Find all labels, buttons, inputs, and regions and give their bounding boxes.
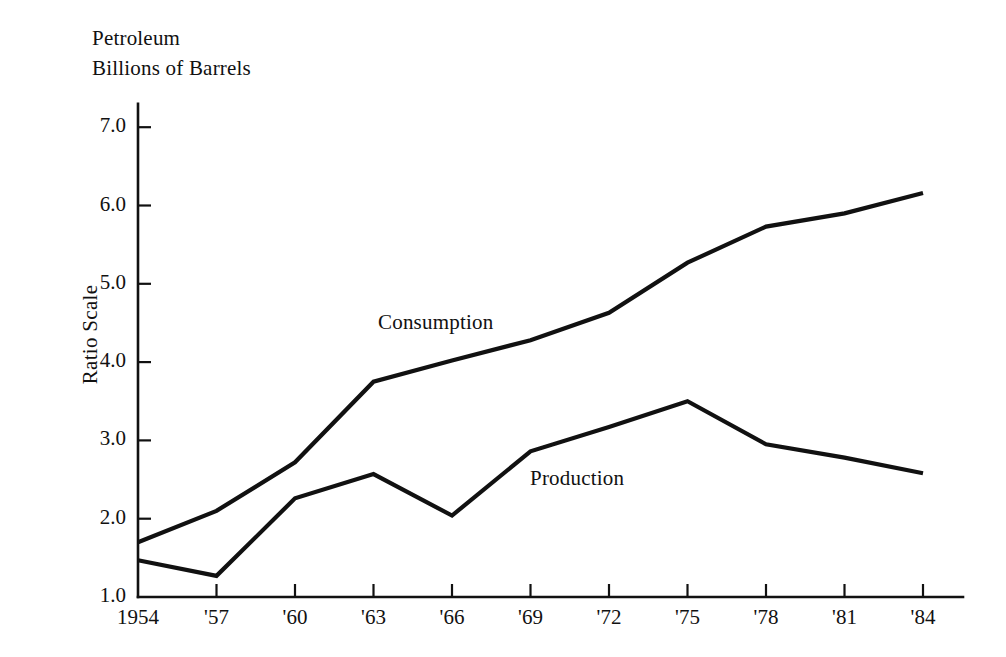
x-axis-ticks bbox=[217, 584, 924, 597]
axis-lines bbox=[138, 104, 963, 597]
petroleum-line-chart-figure: Petroleum Billions of Barrels Ratio Scal… bbox=[0, 0, 1006, 657]
series-line-consumption bbox=[138, 193, 923, 542]
plot-area bbox=[0, 0, 1006, 657]
y-axis-ticks bbox=[138, 127, 151, 519]
data-series-lines bbox=[138, 193, 923, 576]
